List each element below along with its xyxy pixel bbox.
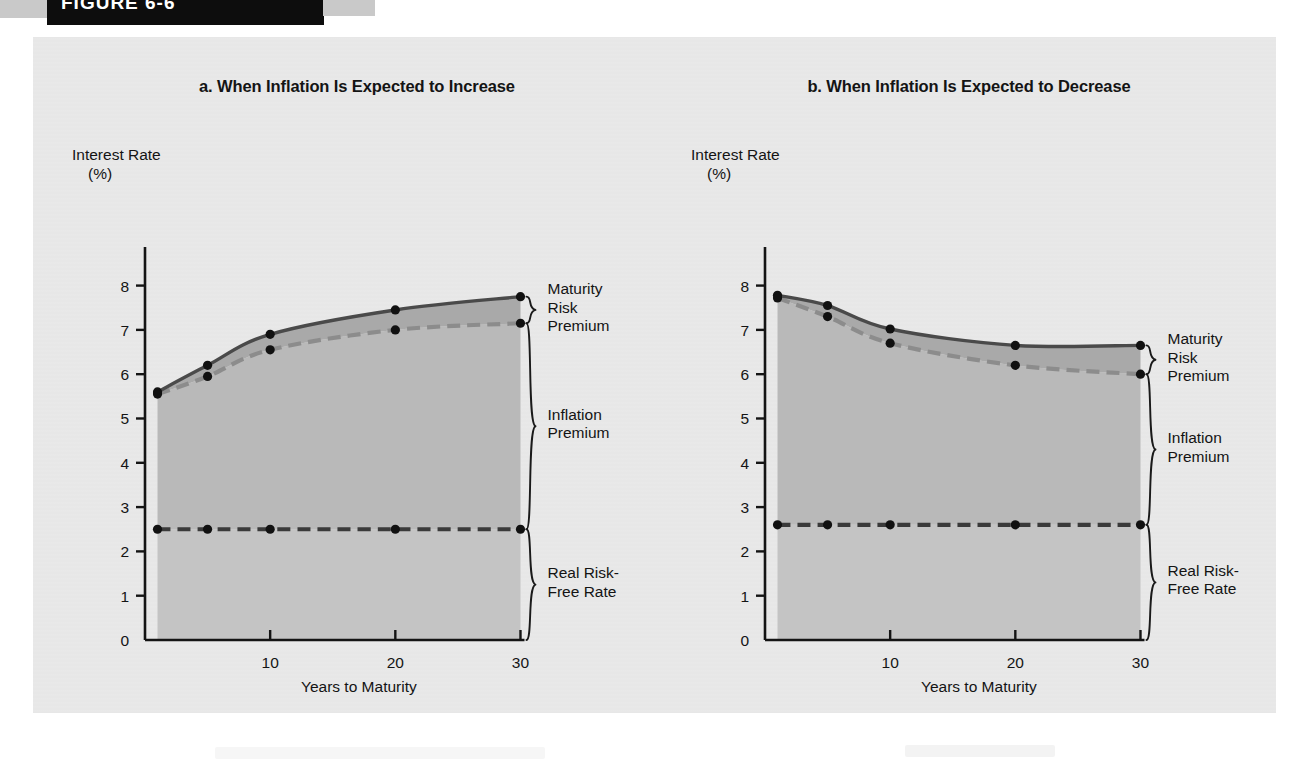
- svg-text:4: 4: [740, 455, 749, 472]
- svg-text:30: 30: [1132, 654, 1150, 671]
- svg-text:2: 2: [120, 543, 129, 560]
- svg-text:7: 7: [740, 322, 749, 339]
- figure-panel: a. When Inflation Is Expected to Increas…: [33, 37, 1276, 713]
- chart-a: a. When Inflation Is Expected to Increas…: [33, 37, 653, 713]
- svg-text:30: 30: [512, 654, 530, 671]
- svg-text:7: 7: [120, 322, 129, 339]
- header-left-stub: [0, 0, 48, 18]
- svg-text:6: 6: [740, 366, 749, 383]
- svg-text:10: 10: [882, 654, 900, 671]
- chart-b-x-axis-label: Years to Maturity: [921, 678, 1037, 696]
- page-bleed-right: [905, 745, 1055, 757]
- svg-text:1: 1: [120, 588, 129, 605]
- page-bleed-left: [215, 747, 545, 759]
- chart-b: b. When Inflation Is Expected to Decreas…: [653, 37, 1273, 713]
- chart-b-annotation-inflation-premium: Inflation Premium: [1167, 429, 1229, 466]
- chart-a-plot: 012345678102030: [33, 37, 653, 713]
- figure-header-bar: FIGURE 6-6: [47, 0, 324, 25]
- svg-text:0: 0: [740, 632, 749, 649]
- svg-text:3: 3: [120, 499, 129, 516]
- chart-a-x-axis-label: Years to Maturity: [301, 678, 417, 696]
- svg-text:5: 5: [120, 410, 129, 427]
- svg-text:8: 8: [740, 278, 749, 295]
- svg-text:5: 5: [740, 410, 749, 427]
- svg-text:8: 8: [120, 278, 129, 295]
- chart-a-annotation-maturity-risk-premium: Maturity Risk Premium: [547, 280, 609, 336]
- svg-text:0: 0: [120, 632, 129, 649]
- svg-text:10: 10: [262, 654, 280, 671]
- svg-text:1: 1: [740, 588, 749, 605]
- header-right-stub: [323, 0, 375, 16]
- chart-b-annotation-real-risk-free-rate: Real Risk- Free Rate: [1167, 562, 1238, 599]
- figure-label: FIGURE 6-6: [61, 0, 176, 14]
- chart-b-annotation-maturity-risk-premium: Maturity Risk Premium: [1167, 330, 1229, 386]
- chart-a-annotation-inflation-premium: Inflation Premium: [547, 406, 609, 443]
- svg-text:3: 3: [740, 499, 749, 516]
- svg-text:20: 20: [1007, 654, 1025, 671]
- svg-text:6: 6: [120, 366, 129, 383]
- svg-text:2: 2: [740, 543, 749, 560]
- svg-text:4: 4: [120, 455, 129, 472]
- chart-a-annotation-real-risk-free-rate: Real Risk- Free Rate: [547, 564, 618, 601]
- svg-text:20: 20: [387, 654, 405, 671]
